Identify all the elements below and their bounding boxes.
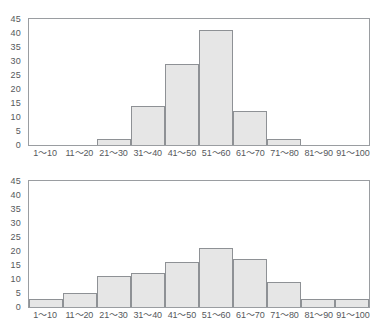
x-tick-label: 31～40: [131, 147, 165, 161]
histogram-bar: [267, 139, 301, 145]
x-tick-label: 81～90: [302, 147, 336, 161]
x-tick-label: 71～80: [267, 309, 301, 323]
x-tick-label: 91～100: [336, 147, 370, 161]
x-tick-label: 31～40: [131, 309, 165, 323]
x-tick-label: 41～50: [165, 309, 199, 323]
x-tick-label: 1～10: [28, 147, 62, 161]
histogram-bar: [131, 273, 165, 307]
bar-slot: [131, 181, 165, 307]
x-axis-chart-2: 1～1011～2021～3031～4041～5051～6061～7071～808…: [28, 309, 370, 323]
histogram-page: 051015202530354045 1～1011～2021～3031～4041…: [0, 0, 386, 323]
bar-slot: [199, 181, 233, 307]
bar-slot: [165, 181, 199, 307]
x-axis-chart-1: 1～1011～2021～3031～4041～5051～6061～7071～808…: [28, 147, 370, 161]
bar-slot: [165, 19, 199, 145]
histogram-bar: [335, 299, 369, 307]
bar-slot: [267, 19, 301, 145]
bar-slot: [131, 19, 165, 145]
y-tick-label: 0: [16, 141, 21, 150]
y-tick-label: 20: [11, 247, 21, 256]
bar-series-chart-1: [29, 19, 369, 145]
histogram-bar: [63, 293, 97, 307]
y-axis-chart-2: 051015202530354045: [0, 180, 28, 308]
x-tick-label: 1～10: [28, 309, 62, 323]
histogram-bar: [165, 64, 199, 145]
histogram-chart-2: 051015202530354045 1～1011～2021～3031～4041…: [0, 162, 386, 323]
bar-slot: [233, 19, 267, 145]
y-tick-label: 45: [11, 15, 21, 24]
x-tick-label: 91～100: [336, 309, 370, 323]
x-tick-label: 51～60: [199, 309, 233, 323]
bar-slot: [97, 19, 131, 145]
bar-series-chart-2: [29, 181, 369, 307]
y-tick-label: 20: [11, 85, 21, 94]
histogram-bar: [199, 30, 233, 145]
x-tick-label: 41～50: [165, 147, 199, 161]
histogram-bar: [233, 111, 267, 145]
y-tick-label: 10: [11, 113, 21, 122]
bar-slot: [233, 181, 267, 307]
y-tick-label: 5: [16, 127, 21, 136]
histogram-bar: [97, 139, 131, 145]
bar-slot: [29, 181, 63, 307]
y-tick-label: 25: [11, 233, 21, 242]
histogram-bar: [131, 106, 165, 145]
histogram-bar: [199, 248, 233, 307]
y-tick-label: 15: [11, 99, 21, 108]
bar-slot: [335, 181, 369, 307]
x-tick-label: 81～90: [302, 309, 336, 323]
bar-slot: [29, 19, 63, 145]
histogram-bar: [301, 299, 335, 307]
bar-slot: [335, 19, 369, 145]
y-axis-chart-1: 051015202530354045: [0, 18, 28, 146]
bar-slot: [97, 181, 131, 307]
histogram-bar: [165, 262, 199, 307]
x-tick-label: 21～30: [96, 309, 130, 323]
bar-slot: [199, 19, 233, 145]
y-tick-label: 5: [16, 289, 21, 298]
x-tick-label: 51～60: [199, 147, 233, 161]
y-tick-label: 30: [11, 219, 21, 228]
bar-slot: [301, 181, 335, 307]
histogram-bar: [29, 299, 63, 307]
y-tick-label: 0: [16, 303, 21, 312]
y-tick-label: 10: [11, 275, 21, 284]
bar-slot: [63, 19, 97, 145]
y-tick-label: 15: [11, 261, 21, 270]
bar-slot: [63, 181, 97, 307]
x-tick-label: 21～30: [96, 147, 130, 161]
bar-slot: [267, 181, 301, 307]
y-tick-label: 35: [11, 43, 21, 52]
y-tick-label: 25: [11, 71, 21, 80]
histogram-bar: [233, 259, 267, 307]
histogram-bar: [267, 282, 301, 307]
y-tick-label: 40: [11, 191, 21, 200]
x-tick-label: 11～20: [62, 309, 96, 323]
x-tick-label: 11～20: [62, 147, 96, 161]
y-tick-label: 40: [11, 29, 21, 38]
x-tick-label: 61～70: [233, 147, 267, 161]
y-tick-label: 45: [11, 177, 21, 186]
bar-slot: [301, 19, 335, 145]
histogram-chart-1: 051015202530354045 1～1011～2021～3031～4041…: [0, 0, 386, 161]
histogram-bar: [97, 276, 131, 307]
y-tick-label: 30: [11, 57, 21, 66]
x-tick-label: 61～70: [233, 309, 267, 323]
x-tick-label: 71～80: [267, 147, 301, 161]
y-tick-label: 35: [11, 205, 21, 214]
